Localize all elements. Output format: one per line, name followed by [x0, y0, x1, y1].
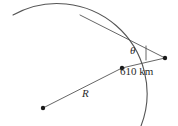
distance-label: 610 km: [120, 66, 153, 77]
figure-canvas: [0, 0, 178, 126]
circle-center-point: [41, 106, 45, 110]
external-vertex-point: [163, 56, 167, 60]
tangent-line: [80, 15, 165, 58]
angle-theta-label: θ: [130, 45, 135, 56]
radius-label: R: [82, 88, 89, 99]
geometry-figure: θ R 610 km: [0, 0, 178, 126]
